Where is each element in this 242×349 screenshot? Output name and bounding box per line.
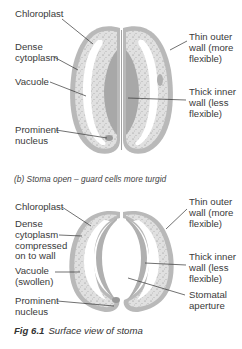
caption-stoma-open: (b) Stoma open – guard cells more turgid <box>14 174 166 184</box>
figure-title: Surface view of stoma <box>48 325 142 336</box>
label-thick-inner-wall-a: Thick inner wall (less flexible) <box>189 87 236 119</box>
label-thick-inner-wall-b: Thick inner wall (less flexible) <box>189 252 236 284</box>
guard-cell-right-closed <box>123 26 173 154</box>
guard-cell-right-open <box>123 211 174 312</box>
label-chloroplast-b: Chloroplast <box>15 202 64 213</box>
label-vacuole-b: Vacuole (swollen) <box>15 266 53 288</box>
figure-caption: Fig 6.1Surface view of stoma <box>14 325 143 336</box>
label-dense-cytoplasm-a: Dense cytoplasm <box>15 42 58 64</box>
label-thin-outer-wall-a: Thin outer wall (more flexible) <box>189 32 233 64</box>
label-prominent-nucleus-b: Prominent nucleus <box>15 296 59 318</box>
label-vacuole-a: Vacuole <box>15 77 49 88</box>
label-chloroplast-a: Chloroplast <box>15 9 64 20</box>
label-thin-outer-wall-b: Thin outer wall (more flexible) <box>189 197 233 229</box>
figure-number: Fig 6.1 <box>14 325 44 336</box>
guard-cell-left-open <box>69 211 120 312</box>
guard-cell-left-closed <box>70 26 120 154</box>
label-stomatal-aperture: Stomatal aperture <box>189 290 227 312</box>
label-dense-cytoplasm-b: Dense cytoplasm compressed on to wall <box>15 219 67 262</box>
label-prominent-nucleus-a: Prominent nucleus <box>15 125 59 147</box>
